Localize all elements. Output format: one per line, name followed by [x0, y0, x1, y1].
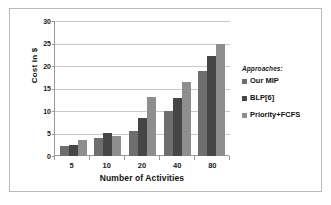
- x-tick-label: 5: [57, 161, 87, 173]
- y-tick-label: 20: [13, 63, 51, 70]
- bar: [207, 56, 216, 156]
- x-tick-label: 40: [162, 161, 192, 173]
- bar: [198, 71, 207, 157]
- legend-swatch-icon: [242, 96, 247, 101]
- y-tick-label: 30: [13, 18, 51, 25]
- x-tickmark: [159, 156, 160, 160]
- y-tickmark: [52, 89, 55, 90]
- x-tickmark: [54, 156, 55, 160]
- bar: [138, 118, 147, 156]
- bar: [78, 140, 87, 156]
- x-tickmark: [194, 156, 195, 160]
- bar: [60, 146, 69, 156]
- x-tickmark: [229, 156, 230, 160]
- y-tick-label: 15: [13, 85, 51, 92]
- x-tick-label: 10: [92, 161, 122, 173]
- bar-group: [94, 21, 121, 156]
- legend-label: Priority+FCFS: [250, 111, 300, 119]
- bar-group: [198, 21, 225, 156]
- legend-swatch-icon: [242, 79, 247, 84]
- plot-area: [54, 21, 229, 156]
- legend-items: Our MIPBLP[6]Priority+FCFS: [242, 77, 320, 119]
- bar: [147, 97, 156, 156]
- x-tick-label: 20: [127, 161, 157, 173]
- bar: [94, 138, 103, 156]
- bar: [112, 136, 121, 156]
- bar: [103, 133, 112, 156]
- bar: [129, 131, 138, 156]
- legend-swatch-icon: [242, 113, 247, 118]
- x-tickmark: [89, 156, 90, 160]
- y-tick-label: 0: [13, 153, 51, 160]
- bar: [69, 145, 78, 156]
- bar-group: [129, 21, 156, 156]
- bar: [216, 44, 225, 157]
- legend-item: BLP[6]: [242, 94, 320, 102]
- bar-groups: [56, 21, 229, 156]
- y-tickmark: [52, 134, 55, 135]
- y-tick-label: 5: [13, 130, 51, 137]
- legend-label: Our MIP: [250, 77, 279, 85]
- legend-label: BLP[6]: [250, 94, 274, 102]
- x-axis-labels: 510204080: [54, 161, 230, 173]
- y-tick-label: 10: [13, 108, 51, 115]
- y-tickmark: [52, 111, 55, 112]
- bar-group: [164, 21, 191, 156]
- y-tick-label: 25: [13, 40, 51, 47]
- legend-item: Priority+FCFS: [242, 111, 320, 119]
- y-tickmark: [52, 21, 55, 22]
- bar: [182, 82, 191, 156]
- x-tick-label: 80: [197, 161, 227, 173]
- legend: Approaches: Our MIPBLP[6]Priority+FCFS: [242, 65, 320, 128]
- y-axis-labels: 051015202530: [10, 21, 51, 156]
- x-tickmark: [124, 156, 125, 160]
- bar-group: [60, 21, 87, 156]
- y-tickmark: [52, 44, 55, 45]
- y-tickmark: [52, 66, 55, 67]
- x-axis-title: Number of Activities: [42, 173, 242, 183]
- bar: [164, 111, 173, 156]
- legend-item: Our MIP: [242, 77, 320, 85]
- bar: [173, 98, 182, 156]
- chart-figure: Cost in $ 051015202530 510204080 Number …: [9, 8, 322, 192]
- legend-title: Approaches:: [242, 65, 320, 72]
